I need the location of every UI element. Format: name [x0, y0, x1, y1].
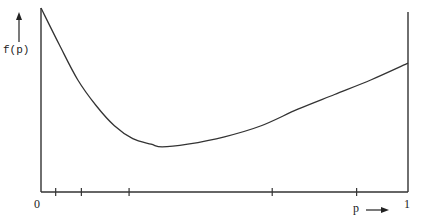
y-arrow-head-icon — [16, 12, 22, 20]
curve-f-of-p — [41, 8, 408, 147]
chart-canvas — [0, 0, 422, 223]
x-origin-label: 0 — [34, 198, 40, 210]
x-arrow-head-icon — [381, 207, 389, 213]
x-axis-label: p — [353, 202, 359, 214]
y-axis-label: f(p) — [3, 45, 29, 56]
x-end-label: 1 — [404, 198, 410, 210]
